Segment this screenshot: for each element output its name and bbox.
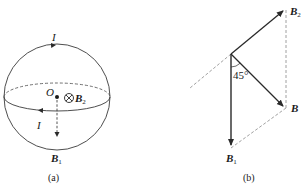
- figure-canvas: I I O B2 B1 (a): [0, 0, 304, 191]
- b-label: B: [290, 102, 298, 114]
- b1-label-a: B1: [50, 152, 62, 166]
- b2-vector: [231, 11, 283, 54]
- parallelogram-side-bottom: [231, 108, 286, 148]
- current-label-top: I: [51, 31, 57, 43]
- caption-b: (b): [243, 172, 255, 184]
- diagram-svg: I I O B2 B1 (a): [0, 0, 304, 191]
- angle-arc: [231, 63, 240, 67]
- caption-a: (a): [48, 172, 59, 184]
- equator-back-dashed: [4, 83, 110, 97]
- into-page-icon: [65, 94, 74, 103]
- b2-extension-dashed: [190, 54, 231, 88]
- current-label-bottom: I: [36, 119, 42, 131]
- current-arrow-top-icon: [48, 45, 56, 46]
- angle-label: 45°: [233, 69, 248, 81]
- figure-a: I I O B2 B1 (a): [4, 31, 110, 184]
- b2-label-b: B2: [289, 5, 301, 19]
- figure-b: 45° B2 B B1 (b): [190, 5, 301, 184]
- center-label: O: [46, 86, 54, 98]
- b1-label-b: B1: [225, 152, 237, 166]
- b2-label-a: B2: [74, 92, 86, 106]
- center-point-icon: [55, 95, 59, 99]
